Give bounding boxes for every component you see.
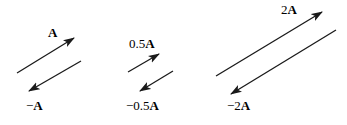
vector-scalar-multiplication-figure: A−A0.5A−0.5A2A−2A [0,0,347,125]
vector-half-a-label: 0.5A [129,37,155,50]
vector-a-label: A [48,26,57,39]
vector-canvas [0,0,347,125]
vector-negative-two-a-label-prefix: −2 [227,98,241,113]
vector-negative-half-a-label: −0.5A [126,99,159,112]
vector-two-a-arrow [216,12,322,76]
vector-negative-half-a-label-symbol: A [150,98,159,113]
vector-half-a-arrow [128,54,159,72]
vector-negative-a-arrow [29,61,81,91]
vector-negative-half-a-label-prefix: −0.5 [126,98,150,113]
vector-half-a-label-symbol: A [145,36,154,51]
vector-a-arrow [17,38,74,73]
vector-a-label-symbol: A [48,25,57,40]
vector-negative-a-label: −A [26,99,43,112]
vector-negative-two-a-label: −2A [227,99,250,112]
vector-negative-two-a-label-symbol: A [241,98,250,113]
vector-negative-half-a-arrow [140,71,173,91]
vector-negative-two-a-arrow [231,30,336,94]
vector-negative-a-label-symbol: A [33,98,42,113]
vector-two-a-label-symbol: A [288,2,297,17]
vector-lines-group [17,12,336,94]
vector-half-a-label-prefix: 0.5 [129,36,145,51]
vector-two-a-label: 2A [281,3,297,16]
